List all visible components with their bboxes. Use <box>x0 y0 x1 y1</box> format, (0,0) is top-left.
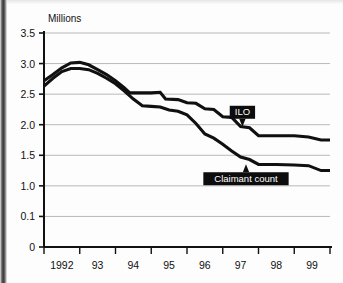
y-axis-tick-label-group: 3.53.02.52.01.51.00.10 <box>20 27 35 253</box>
unemployment-line-chart: 3.53.02.52.01.51.00.10 19929394959697989… <box>0 0 343 283</box>
y-axis-tick-label: 2.0 <box>20 119 35 131</box>
annotation-group: ILOClaimant count <box>203 106 288 185</box>
x-axis-tick-label: 1992 <box>50 259 74 271</box>
data-series-group <box>44 62 330 170</box>
annotation-label: ILO <box>235 106 250 117</box>
chart-figure: 3.53.02.52.01.51.00.10 19929394959697989… <box>0 0 343 283</box>
series-line-ilo <box>44 62 330 140</box>
y-axis-title: Millions <box>48 13 81 24</box>
y-axis-tick-label: 2.5 <box>20 88 35 100</box>
x-axis-tick-label: 98 <box>271 259 283 271</box>
y-axis-tick-label: 3.0 <box>20 58 35 70</box>
annotation-pointer <box>243 164 249 172</box>
x-axis-tick-label: 95 <box>163 259 175 271</box>
x-axis-tick-label: 99 <box>306 259 318 271</box>
y-axis-tick-label: 1.0 <box>20 180 35 192</box>
y-axis-tick-label: 3.5 <box>20 27 35 39</box>
x-axis-tick-label: 96 <box>199 259 211 271</box>
x-axis-tick-label-group: 199293949596979899 <box>50 259 318 271</box>
gridline-group <box>44 33 330 216</box>
x-axis-tick-label: 97 <box>235 259 247 271</box>
y-axis-tick-label: 0.1 <box>20 210 35 222</box>
y-axis-tick-label: 0 <box>29 241 35 253</box>
annotation-label: Claimant count <box>214 173 278 184</box>
y-axis-tick-label: 1.5 <box>20 149 35 161</box>
x-axis-tick-label: 94 <box>128 259 140 271</box>
x-axis-tick-label: 93 <box>92 259 104 271</box>
x-axis-tick-group <box>44 247 330 254</box>
